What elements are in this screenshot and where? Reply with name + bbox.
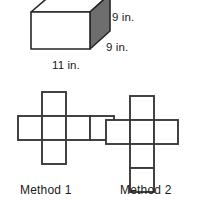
net-2-square-left xyxy=(106,120,130,144)
prism-depth-label: 9 in. xyxy=(106,42,128,54)
rectangular-prism xyxy=(31,0,110,49)
net-method-1 xyxy=(18,92,114,164)
method-2-caption: Method 2 xyxy=(120,184,172,196)
net-1-square-top xyxy=(42,92,66,116)
net-2-square-col-2 xyxy=(130,120,154,144)
net-1-square-bottom xyxy=(42,140,66,164)
net-method-2 xyxy=(106,96,178,192)
geometry-figure xyxy=(0,0,199,204)
net-1-square-row-3 xyxy=(66,116,90,140)
figure-container: 9 in. 9 in. 11 in. Method 1 Method 2 xyxy=(0,0,199,204)
net-2-square-right xyxy=(154,120,178,144)
net-2-square-col-1 xyxy=(130,96,154,120)
prism-front-face xyxy=(31,12,90,49)
prism-height-label: 9 in. xyxy=(112,12,134,24)
method-1-caption: Method 1 xyxy=(20,184,72,196)
net-1-square-row-2 xyxy=(42,116,66,140)
net-1-square-row-1 xyxy=(18,116,42,140)
prism-width-label: 11 in. xyxy=(52,60,80,72)
net-2-square-col-3 xyxy=(130,144,154,168)
